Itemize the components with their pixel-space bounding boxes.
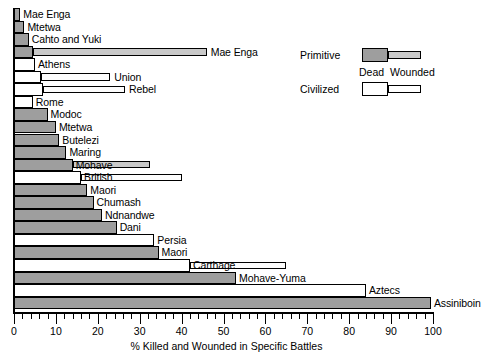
x-tick-minor [324, 314, 325, 319]
x-tick-minor [215, 314, 216, 319]
x-tick-label: 50 [204, 325, 244, 337]
bar-label: Dani [120, 221, 141, 234]
bar-segment-dead [14, 246, 159, 259]
bar-segment-wounded [43, 86, 125, 93]
bar-label: Mohave-Yuma [239, 272, 306, 285]
legend-row-primitive: Primitive [300, 48, 450, 62]
x-tick-minor [73, 314, 74, 319]
x-tick-major [56, 314, 57, 324]
bar-segment-dead [14, 71, 41, 84]
x-tick-label: 30 [120, 325, 160, 337]
x-tick-major [265, 314, 266, 324]
x-tick-minor [399, 314, 400, 319]
x-tick-minor [131, 314, 132, 319]
bar-segment-dead [14, 196, 94, 209]
bar-label: British [84, 171, 112, 184]
bar-segment-dead [14, 297, 431, 310]
x-tick-major [140, 314, 141, 324]
bar-segment-dead [14, 209, 102, 222]
bar-segment-wounded [41, 73, 110, 80]
legend-swatch-civilized-dead [362, 82, 388, 96]
x-tick-minor [332, 314, 333, 319]
x-tick-minor [198, 314, 199, 319]
bar-segment-dead [14, 234, 154, 247]
x-tick-minor [425, 314, 426, 319]
legend-label-civilized: Civilized [300, 82, 339, 96]
bar-segment-dead [14, 121, 56, 134]
x-tick-minor [190, 314, 191, 319]
bar-label: Rebel [129, 83, 156, 96]
x-tick-minor [257, 314, 258, 319]
x-tick-label: 80 [329, 325, 369, 337]
x-tick-minor [341, 314, 342, 319]
bar-segment-dead [14, 221, 117, 234]
x-tick-major [307, 314, 308, 324]
bar-row [14, 246, 433, 259]
x-tick-label: 70 [287, 325, 327, 337]
x-tick-major [349, 314, 350, 324]
x-tick-minor [89, 314, 90, 319]
x-tick-minor [173, 314, 174, 319]
bar-row [14, 221, 433, 234]
bar-segment-dead [14, 171, 81, 184]
x-tick-minor [316, 314, 317, 319]
bar-segment-dead [14, 184, 87, 197]
bar-label: Union [114, 71, 141, 84]
x-tick-label: 40 [162, 325, 202, 337]
bar-row [14, 196, 433, 209]
bar-segment-dead [14, 83, 43, 96]
bar-segment-dead [14, 8, 20, 21]
bar-row [14, 209, 433, 222]
bar-label: Maori [90, 184, 116, 197]
x-tick-minor [39, 314, 40, 319]
bar-row [14, 21, 433, 34]
x-tick-major [98, 314, 99, 324]
bar-label: Athens [38, 58, 70, 71]
bar-segment-dead [14, 159, 73, 172]
bar-row [14, 171, 433, 184]
bar-segment-dead [14, 46, 33, 59]
bar-segment-dead [14, 21, 24, 34]
x-tick-major [391, 314, 392, 324]
bar-segment-dead [14, 134, 59, 147]
x-tick-minor [366, 314, 367, 319]
x-tick-minor [291, 314, 292, 319]
x-tick-minor [383, 314, 384, 319]
legend-label-primitive: Primitive [300, 48, 340, 62]
x-tick-minor [165, 314, 166, 319]
bar-label: Ndnandwe [105, 209, 154, 222]
x-tick-minor [232, 314, 233, 319]
bar-row [14, 234, 433, 247]
bar-row [14, 272, 433, 285]
x-tick-major [224, 314, 225, 324]
bar-label: Butelezi [62, 134, 99, 147]
legend-row-civilized: Civilized [300, 82, 450, 96]
bar-segment-dead [14, 259, 190, 272]
bar-label: Mohave [76, 159, 113, 172]
x-tick-label: 90 [371, 325, 411, 337]
x-tick-minor [123, 314, 124, 319]
x-tick-minor [64, 314, 65, 319]
x-tick-minor [249, 314, 250, 319]
bar-segment-dead [14, 33, 29, 46]
x-tick-label: 60 [245, 325, 285, 337]
x-tick-minor [274, 314, 275, 319]
x-tick-minor [207, 314, 208, 319]
bar-label: Aztecs [369, 284, 400, 297]
bar-label: Persia [157, 234, 186, 247]
x-tick-minor [282, 314, 283, 319]
bar-segment-dead [14, 58, 35, 71]
x-tick-minor [408, 314, 409, 319]
bar-label: Mtetwa [59, 121, 92, 134]
bar-label: Cahto and Yuki [32, 33, 102, 46]
x-tick-minor [156, 314, 157, 319]
bar-row [14, 184, 433, 197]
legend-label-wounded: Wounded [390, 66, 435, 78]
x-tick-minor [374, 314, 375, 319]
x-tick-minor [416, 314, 417, 319]
bar-segment-wounded [33, 48, 207, 55]
bar-segment-dead [14, 272, 236, 285]
x-tick-label: 0 [0, 325, 34, 337]
x-tick-minor [115, 314, 116, 319]
